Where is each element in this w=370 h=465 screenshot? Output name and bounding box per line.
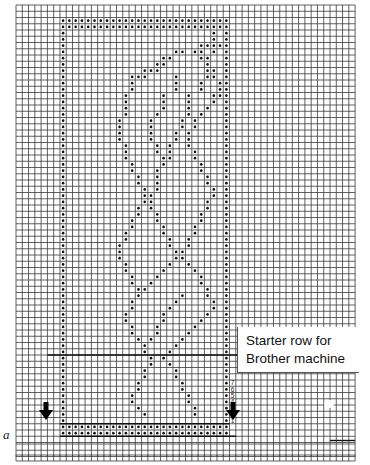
knitting-chart: 7654321 [0, 0, 370, 465]
print-blemish [324, 400, 334, 408]
starter-row-callout: Starter row for Brother machine [237, 327, 359, 373]
starter-row-line2: Brother machine [246, 350, 345, 368]
starter-row-line1: Starter row for [246, 332, 345, 350]
starter-row-text: Starter row for Brother machine [246, 332, 345, 368]
chart-label-a: a [3, 427, 10, 443]
